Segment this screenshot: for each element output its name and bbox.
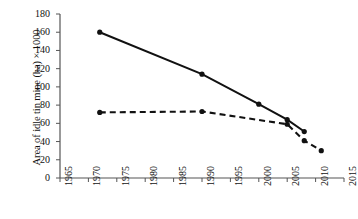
x-tick-label: 1995	[234, 166, 244, 186]
x-tick-label: 1970	[92, 166, 102, 186]
y-tick-label: 100	[24, 82, 50, 92]
x-tick-label: 1980	[149, 166, 159, 186]
data-series-group	[97, 30, 324, 154]
data-point-marker	[256, 102, 261, 107]
data-point-marker	[285, 117, 290, 122]
y-tick-label: 60	[24, 118, 50, 128]
y-tick-label: 0	[24, 173, 50, 183]
data-point-marker	[302, 129, 307, 134]
x-tick-label: 2015	[348, 166, 358, 186]
y-tick-label: 20	[24, 155, 50, 165]
y-tick-label: 140	[24, 45, 50, 55]
x-tick-label: 2000	[263, 166, 273, 186]
data-point-marker	[97, 30, 102, 35]
x-tick-label: 1985	[178, 166, 188, 186]
x-tick-label: 1975	[121, 166, 131, 186]
series-line-solid-series	[100, 32, 304, 131]
y-tick-label: 180	[24, 9, 50, 19]
x-tick-label: 1965	[64, 166, 74, 186]
x-tick-label: 2010	[320, 166, 330, 186]
y-tick-label: 120	[24, 64, 50, 74]
data-point-marker	[302, 138, 307, 143]
x-axis-ticks	[60, 178, 344, 182]
data-point-marker	[199, 72, 204, 77]
y-tick-label: 160	[24, 27, 50, 37]
data-point-marker	[285, 122, 290, 127]
data-point-marker	[97, 110, 102, 115]
x-tick-label: 1990	[206, 166, 216, 186]
x-tick-label: 2005	[291, 166, 301, 186]
data-point-marker	[199, 109, 204, 114]
data-point-marker	[319, 148, 324, 153]
y-tick-label: 40	[24, 137, 50, 147]
y-tick-label: 80	[24, 100, 50, 110]
